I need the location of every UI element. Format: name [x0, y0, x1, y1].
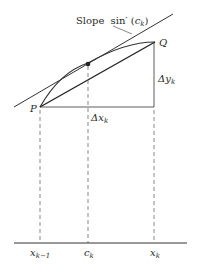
axis-label-x-k: xk: [150, 247, 160, 260]
slope-leader-line: [113, 26, 132, 34]
point-P-label: P: [29, 103, 37, 114]
chord-PQ: [40, 42, 155, 107]
delta-y-label: Δyk: [157, 73, 175, 86]
delta-x-label: Δxk: [90, 112, 108, 125]
slope-label: Slope sin′ (ck): [76, 15, 149, 28]
tangent-point: [86, 62, 91, 67]
point-Q-label: Q: [159, 37, 167, 48]
arc-length-diagram: Slope sin′ (ck) P Q Δyk Δxk xk−1 ck xk: [0, 0, 201, 272]
axis-label-c-k: ck: [84, 247, 94, 260]
axis-label-x-km1: xk−1: [30, 247, 50, 260]
